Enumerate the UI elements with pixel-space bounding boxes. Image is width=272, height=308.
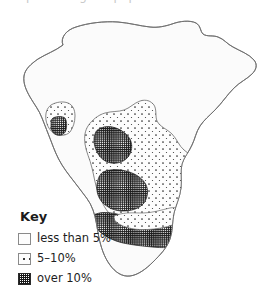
legend-title: Key: [20, 210, 138, 224]
legend-label-less-than-5: less than 5%: [37, 232, 111, 245]
legend-label-5-to-10: 5–10%: [37, 252, 76, 265]
legend-swatch-dotted-icon: [18, 253, 31, 265]
region-over-10-percent-ghana: [51, 117, 67, 136]
legend: Key less than 5% 5–10% over 10%: [18, 210, 138, 289]
legend-label-over-10: over 10%: [37, 272, 92, 285]
legend-item-5-to-10: 5–10%: [18, 249, 138, 268]
legend-swatch-plain-icon: [18, 233, 31, 245]
map-figure-page: percentage of population: [0, 0, 272, 308]
legend-item-over-10: over 10%: [18, 269, 138, 288]
legend-item-less-than-5: less than 5%: [18, 229, 138, 248]
legend-swatch-hatched-icon: [18, 273, 31, 285]
